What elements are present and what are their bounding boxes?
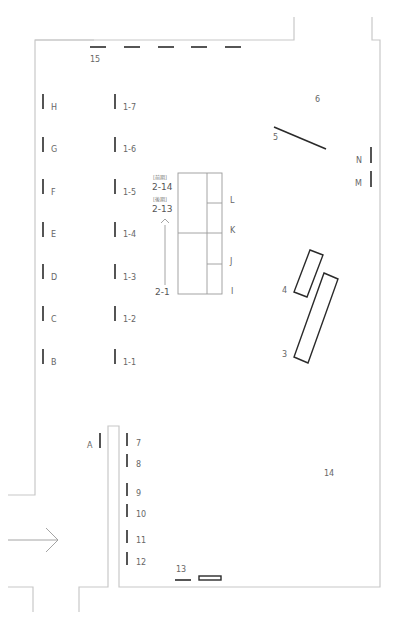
label-9: 9 (136, 490, 141, 498)
label-2-1: 2-1 (155, 288, 170, 297)
top-wall (35, 17, 294, 40)
label-1-5: 1-5 (123, 189, 136, 197)
label-e: E (51, 231, 56, 239)
label-11: 11 (136, 537, 146, 545)
label-c: C (51, 316, 57, 324)
label-d: D (51, 274, 57, 282)
label-g: G (51, 146, 57, 154)
floor-plan-drawing (0, 0, 399, 636)
label-m: M (355, 180, 362, 188)
diagonal-wall-5 (274, 127, 326, 149)
right-arrow-icon (8, 528, 58, 552)
label-4: 4 (282, 287, 287, 295)
label-7: 7 (136, 440, 141, 448)
label-b: B (51, 359, 57, 367)
label-l: L (230, 197, 234, 205)
central-case (178, 173, 222, 294)
label-2-13: 2-13 (152, 205, 172, 214)
label-h: H (51, 104, 57, 112)
bottom-left-wall (8, 587, 33, 612)
label-n: N (356, 157, 362, 165)
up-arrow-icon (161, 219, 169, 285)
label-3: 3 (282, 351, 287, 359)
label-1-7: 1-7 (123, 104, 136, 112)
label-13: 13 (176, 566, 186, 574)
label-1-6: 1-6 (123, 146, 136, 154)
label-1-1: 1-1 (123, 359, 136, 367)
label-14: 14 (324, 470, 334, 478)
label-a: A (87, 442, 92, 450)
label-6: 6 (315, 96, 320, 104)
small-case (199, 576, 221, 580)
label-2-14: 2-14 (152, 183, 172, 192)
label-f: F (51, 189, 56, 197)
label-8: 8 (136, 461, 141, 469)
label-1-3: 1-3 (123, 274, 136, 282)
label-15: 15 (90, 56, 100, 64)
label-1-2: 1-2 (123, 316, 136, 324)
label-10: 10 (136, 511, 146, 519)
label-12: 12 (136, 559, 146, 567)
label-first-term-tag: [前期] (153, 175, 167, 180)
label-1-4: 1-4 (123, 231, 136, 239)
label-k: K (230, 227, 235, 235)
label-j: J (230, 258, 232, 266)
label-second-term-tag: [後期] (153, 197, 167, 202)
label-i: I (231, 288, 233, 296)
label-5: 5 (273, 134, 278, 142)
